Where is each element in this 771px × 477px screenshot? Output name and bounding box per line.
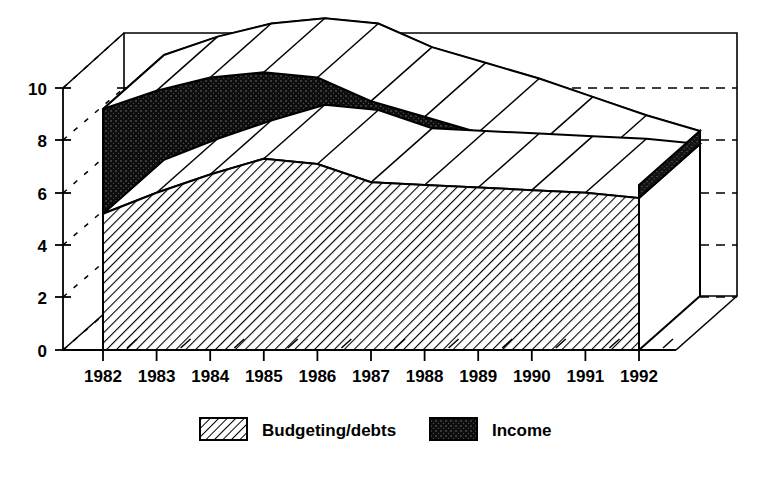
x-tick-label: 1983 [138,367,176,386]
area-chart-svg: 10 8 6 4 2 0 198219831984198519861987198… [0,0,771,477]
x-tick-label: 1991 [566,367,604,386]
x-tick-label: 1990 [513,367,551,386]
y-tick-label: 2 [38,289,47,308]
x-tick-label: 1988 [406,367,444,386]
x-tick-label: 1984 [191,367,229,386]
y-tick-label: 0 [38,342,47,361]
y-tick-label: 6 [38,185,47,204]
x-depth-tick [663,339,673,348]
x-tick-label: 1989 [459,367,497,386]
y-axis-labels: 10 8 6 4 2 0 [28,80,47,361]
chart-container: 10 8 6 4 2 0 198219831984198519861987198… [0,0,771,477]
chart-legend: Budgeting/debts Income [200,418,552,440]
hatch-swatch [200,418,247,440]
x-axis-labels: 1982198319841985198619871988198919901991… [84,367,658,386]
x-tick-label: 1987 [352,367,390,386]
legend-label-budgeting: Budgeting/debts [262,421,396,440]
x-tick-label: 1992 [620,367,658,386]
x-tick-label: 1982 [84,367,122,386]
x-tick-label: 1986 [298,367,336,386]
legend-item-budgeting[interactable]: Budgeting/debts [200,418,396,440]
legend-label-income: Income [492,421,552,440]
solid-swatch [430,418,477,440]
y-tick-label: 10 [28,80,47,99]
x-tick-label: 1985 [245,367,283,386]
legend-item-income[interactable]: Income [430,418,552,440]
y-tick-label: 8 [38,132,47,151]
y-tick-label: 4 [38,237,48,256]
